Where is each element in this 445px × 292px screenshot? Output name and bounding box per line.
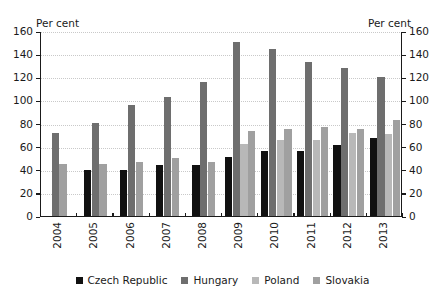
bar bbox=[172, 158, 179, 217]
bar-group bbox=[149, 32, 185, 217]
bar bbox=[240, 144, 247, 217]
plot-area: 0020204040606080801001001201201401401601… bbox=[40, 32, 402, 217]
legend-label: Poland bbox=[264, 274, 299, 286]
chart-legend: Czech RepublicHungaryPolandSlovakia bbox=[0, 274, 445, 286]
y-axis-tick-label: 160 bbox=[409, 26, 429, 37]
bar bbox=[233, 42, 240, 217]
bar bbox=[370, 138, 377, 217]
x-axis-label-2005: 2005 bbox=[88, 222, 99, 249]
bar-group bbox=[293, 32, 329, 217]
y-axis-tick bbox=[402, 193, 406, 194]
legend-label: Slovakia bbox=[325, 274, 369, 286]
legend-swatch-icon bbox=[313, 277, 320, 284]
x-axis-label-2010: 2010 bbox=[269, 222, 280, 249]
y-axis-tick-label: 160 bbox=[13, 26, 33, 37]
x-axis-label-2009: 2009 bbox=[233, 222, 244, 249]
bar bbox=[313, 140, 320, 217]
y-axis-tick-label: 40 bbox=[409, 165, 422, 176]
x-axis-tick bbox=[257, 213, 258, 217]
legend-item-poland[interactable]: Poland bbox=[252, 274, 299, 286]
bar bbox=[52, 133, 59, 217]
y-axis-tick-label: 0 bbox=[409, 211, 416, 222]
bar bbox=[321, 127, 328, 217]
x-axis-tick bbox=[40, 213, 41, 217]
y-axis-tick bbox=[402, 78, 406, 79]
y-axis-tick-label: 20 bbox=[20, 188, 33, 199]
y-axis-tick bbox=[36, 55, 40, 56]
x-axis-label-2006: 2006 bbox=[125, 222, 136, 249]
bar-group bbox=[330, 32, 366, 217]
y-axis-tick bbox=[36, 147, 40, 148]
bar bbox=[128, 105, 135, 217]
legend-swatch-icon bbox=[181, 277, 188, 284]
bar bbox=[200, 82, 207, 217]
y-axis-tick-label: 80 bbox=[20, 119, 33, 130]
x-axis-label-2013: 2013 bbox=[378, 222, 389, 249]
y-axis-tick bbox=[402, 124, 406, 125]
legend-item-slovakia[interactable]: Slovakia bbox=[313, 274, 369, 286]
y-axis-tick-label: 120 bbox=[13, 72, 33, 83]
bar bbox=[208, 162, 215, 218]
legend-swatch-icon bbox=[76, 277, 83, 284]
y-axis-tick-label: 100 bbox=[13, 95, 33, 106]
y-axis-tick bbox=[402, 101, 406, 102]
plot-inner: 0020204040606080801001001201201401401601… bbox=[40, 32, 402, 217]
right-axis-unit-label: Per cent bbox=[368, 17, 411, 29]
bar-group bbox=[257, 32, 293, 217]
bar-group bbox=[221, 32, 257, 217]
bar-group bbox=[185, 32, 221, 217]
y-axis-tick-label: 0 bbox=[26, 211, 33, 222]
y-axis-tick-label: 80 bbox=[409, 119, 422, 130]
x-axis-label-2004: 2004 bbox=[52, 222, 63, 249]
legend-item-czech-republic[interactable]: Czech Republic bbox=[76, 274, 168, 286]
x-axis-label-2008: 2008 bbox=[197, 222, 208, 249]
y-axis-tick-label: 60 bbox=[409, 142, 422, 153]
legend-item-hungary[interactable]: Hungary bbox=[181, 274, 238, 286]
x-axis-tick bbox=[149, 213, 150, 217]
legend-label: Czech Republic bbox=[88, 274, 168, 286]
bar bbox=[297, 151, 304, 217]
bar bbox=[192, 165, 199, 217]
y-axis-tick-label: 140 bbox=[409, 49, 429, 60]
y-axis-tick bbox=[402, 32, 406, 33]
bar bbox=[305, 62, 312, 217]
chart-container: Per cent Per cent 0020204040606080801001… bbox=[0, 0, 445, 292]
bar bbox=[120, 170, 127, 217]
y-axis-tick-label: 60 bbox=[20, 142, 33, 153]
bar bbox=[393, 120, 400, 217]
x-axis-tick bbox=[185, 213, 186, 217]
y-axis-tick bbox=[36, 170, 40, 171]
left-axis-unit-label: Per cent bbox=[36, 17, 79, 29]
x-axis-tick bbox=[76, 213, 77, 217]
bar bbox=[333, 145, 340, 217]
bar bbox=[357, 129, 364, 217]
bar-group bbox=[76, 32, 112, 217]
y-axis-tick-label: 100 bbox=[409, 95, 429, 106]
bar bbox=[136, 162, 143, 218]
bar bbox=[341, 68, 348, 217]
y-axis-tick-label: 120 bbox=[409, 72, 429, 83]
bar bbox=[284, 129, 291, 217]
bar bbox=[156, 165, 163, 217]
y-axis-tick bbox=[36, 124, 40, 125]
y-axis-tick bbox=[402, 147, 406, 148]
bar bbox=[349, 133, 356, 217]
legend-label: Hungary bbox=[193, 274, 238, 286]
x-axis-label-2011: 2011 bbox=[306, 222, 317, 249]
bar-group bbox=[40, 32, 76, 217]
x-axis-tick bbox=[330, 213, 331, 217]
bar bbox=[261, 151, 268, 217]
x-axis-tick bbox=[402, 213, 403, 217]
bar bbox=[84, 170, 91, 217]
bar bbox=[92, 123, 99, 217]
x-axis-label-2012: 2012 bbox=[342, 222, 353, 249]
x-axis-tick bbox=[366, 213, 367, 217]
bar-group bbox=[366, 32, 402, 217]
y-axis-tick bbox=[402, 55, 406, 56]
bar bbox=[225, 157, 232, 217]
y-axis-tick bbox=[36, 78, 40, 79]
x-axis-label-2007: 2007 bbox=[161, 222, 172, 249]
legend-swatch-icon bbox=[252, 277, 259, 284]
y-axis-tick-label: 40 bbox=[20, 165, 33, 176]
y-axis-tick-label: 140 bbox=[13, 49, 33, 60]
